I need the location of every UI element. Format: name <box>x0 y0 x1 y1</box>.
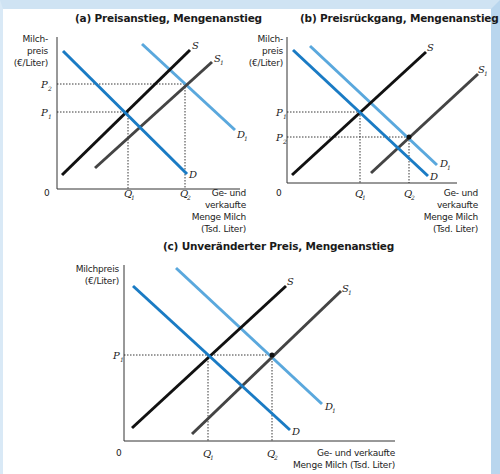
panel-c-new-equilibrium-dot <box>270 353 275 358</box>
panel-c-x-label-1: Ge- und verkaufte <box>317 448 396 458</box>
panel-a-x-label-1: Ge- und <box>212 188 246 198</box>
panel-b-p2-sub: 2 <box>282 138 287 145</box>
panel-c-q2-sub: 2 <box>273 454 278 461</box>
panel-b-new-equilibrium-dot <box>407 135 412 140</box>
panel-c-p1-sub: 1 <box>120 356 124 363</box>
panel-c-label-d: D <box>291 426 300 437</box>
panel-b: (b) Preisrückgang, Mengenanstieg Milch- … <box>249 12 499 234</box>
panel-a-x-label-2: verkaufte <box>205 200 247 210</box>
panel-c-y-label-1: Milchpreis <box>76 264 120 274</box>
panel-b-q1-sub: 1 <box>362 194 366 201</box>
panel-a-label-d1-sub: 1 <box>244 135 248 142</box>
panel-a-label-s1-sub: 1 <box>220 59 224 66</box>
panel-b-y-label-3: (€/Liter) <box>249 58 283 68</box>
panel-b-p2-label: P <box>275 132 283 143</box>
panel-a-q1-sub: 1 <box>131 194 135 201</box>
panel-a-x-label-3: Menge Milch <box>192 212 246 222</box>
panel-b-demand-d1 <box>310 46 437 165</box>
panel-a-demand-d1 <box>142 44 235 130</box>
panel-a-y-label-2: preis <box>27 46 48 56</box>
panel-b-y-label-1: Milch- <box>258 34 283 44</box>
panel-c-label-s: S <box>287 276 294 287</box>
panel-a-supply-s1 <box>95 62 212 168</box>
panel-a-q2-sub: 2 <box>186 194 191 201</box>
panel-c-title: (c) Unveränderter Preis, Mengenanstieg <box>163 240 394 252</box>
panel-b-title: (b) Preisrückgang, Mengenanstieg <box>300 12 499 24</box>
panel-b-label-s1-sub: 1 <box>484 70 488 77</box>
panel-b-label-d1-sub: 1 <box>447 164 451 171</box>
panel-a-p2-sub: 2 <box>47 85 52 92</box>
panel-a-p1-label: P <box>40 107 48 118</box>
panel-b-x-label-1: Ge- und <box>444 188 478 198</box>
panel-a-y-label-3: (€/Liter) <box>14 58 48 68</box>
panel-b-y-label-2: preis <box>262 46 283 56</box>
panel-c-label-d1-sub: 1 <box>332 407 336 414</box>
panel-c-label-s1-sub: 1 <box>348 289 352 296</box>
panel-c-x-label-2: Menge Milch (Tsd. Liter) <box>293 460 395 470</box>
panel-b-label-s: S <box>427 42 434 53</box>
panel-a-axes <box>57 37 240 189</box>
panel-a-title: (a) Preisanstieg, Mengenanstieg <box>75 12 262 24</box>
panel-a-label-d: D <box>188 169 197 180</box>
panel-c-axes <box>124 265 395 441</box>
panel-a-p2-label: P <box>40 79 48 90</box>
panel-a-p1-sub: 1 <box>48 113 52 120</box>
panel-a-label-s: S <box>192 40 199 51</box>
panel-c-demand-d <box>133 286 290 430</box>
panel-b-x-label-3: Menge Milch <box>424 212 478 222</box>
panel-a: (a) Preisanstieg, Mengenanstieg Milch- p… <box>14 12 262 234</box>
panel-b-q2-sub: 2 <box>410 194 415 201</box>
panel-b-x-label-4: (Tsd. Liter) <box>433 224 478 234</box>
panel-c-y-label-2: (€/Liter) <box>85 276 119 286</box>
panel-c: (c) Unveränderter Preis, Mengenanstieg M… <box>76 240 396 470</box>
panel-b-p1-sub: 1 <box>283 113 287 120</box>
panel-c-demand-d1 <box>176 268 322 404</box>
panel-b-p1-label: P <box>275 107 283 118</box>
panel-b-origin: 0 <box>276 188 282 198</box>
panel-c-origin: 0 <box>116 448 122 458</box>
panel-a-y-label-1: Milch- <box>23 34 48 44</box>
panel-a-origin: 0 <box>44 188 50 198</box>
supply-demand-figure: (a) Preisanstieg, Mengenanstieg Milch- p… <box>0 0 500 474</box>
panel-a-x-label-4: (Tsd. Liter) <box>201 224 246 234</box>
panel-b-label-d: D <box>429 171 438 182</box>
panel-c-p1-label: P <box>112 350 120 361</box>
panel-c-q1-sub: 1 <box>210 454 214 461</box>
panel-b-x-label-2: verkaufte <box>437 200 479 210</box>
